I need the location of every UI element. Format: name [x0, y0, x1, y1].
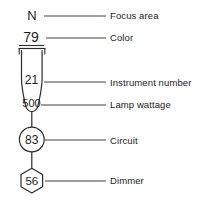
circuit-number-label: 83 — [25, 133, 39, 147]
diagram-canvas: N 79 21 500 83 56 — [0, 0, 210, 202]
callout-label-color: Color — [110, 33, 133, 43]
callout-label-lamp-wattage: Lamp wattage — [110, 100, 171, 110]
lighting-symbol-key-diagram: N 79 21 500 83 56 — [0, 0, 210, 202]
color-number-icon: 79 — [23, 29, 39, 45]
callout-label-dimmer: Dimmer — [110, 176, 144, 186]
focus-area-letter-icon: N — [27, 8, 36, 23]
dimmer-number-label: 56 — [25, 175, 38, 187]
callout-label-focus-area: Focus area — [110, 11, 159, 21]
callout-label-instrument-number: Instrument number — [110, 78, 191, 88]
instrument-number-icon: 21 — [25, 73, 39, 87]
lamp-wattage-icon: 500 — [22, 97, 40, 109]
callout-label-circuit: Circuit — [110, 136, 138, 146]
